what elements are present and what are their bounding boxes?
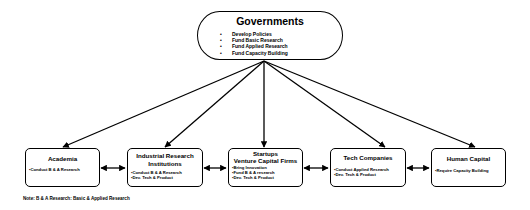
node-item-list: Develop Policies Fund Basic Research Fun… [220,31,288,56]
arrow-gov-industrial [165,61,264,147]
node-item: Dev. Tech & Product [131,175,202,180]
node-title: Industrial Research Institutions [135,152,195,167]
footnote: Note: B & A Research: Basic & Applied Re… [23,196,130,201]
node-industrial-research-institutions: Industrial Research Institutions Conduct… [127,148,203,187]
node-item: Require Capacity Building [435,168,505,173]
arrow-gov-academia [63,61,264,147]
node-title: Academia [26,155,99,163]
node-human-capital: Human Capital Require Capacity Building [431,148,506,187]
node-title-line: Venture Capital Firms [229,158,302,165]
node-item: Fund Capacity Building [220,50,288,56]
node-item: Dev. Tech & Product [334,172,405,177]
node-title: Tech Companies [331,154,405,162]
node-academia: Academia Conduct B & A Research [25,148,100,187]
node-item-list: Bring Innovation Fund B & A research Dev… [229,165,302,181]
node-governments: Governments Develop Policies Fund Basic … [197,11,343,60]
node-item-list: Conduct B & A Research [26,167,99,172]
node-item-list: Require Capacity Building [432,168,505,173]
arrow-gov-tech [264,61,385,147]
node-item: Conduct B & A Research [29,167,99,172]
node-title: Startups Venture Capital Firms [229,151,302,165]
node-title: Governments [198,15,342,27]
node-item-list: Conduct Applied Research Dev. Tech & Pro… [331,167,405,177]
node-startups-venture-capital: Startups Venture Capital Firms Bring Inn… [228,148,303,187]
node-title: Human Capital [432,155,505,163]
node-tech-companies: Tech Companies Conduct Applied Research … [330,148,406,187]
node-item: Dev. Tech & Product [232,175,302,180]
arrow-gov-human [264,61,475,147]
node-item-list: Conduct B & A Research Dev. Tech & Produ… [128,170,202,180]
